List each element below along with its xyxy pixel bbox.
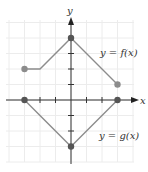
y-axis-arrow-icon bbox=[68, 17, 74, 25]
data-point bbox=[114, 81, 120, 87]
data-point bbox=[21, 97, 27, 103]
chart: x y y = f(x) y = g(x) bbox=[0, 0, 148, 172]
data-point bbox=[68, 143, 74, 149]
x-axis-arrow-icon bbox=[131, 97, 139, 103]
f-label: y = f(x) bbox=[99, 47, 138, 58]
x-axis-label: x bbox=[140, 95, 146, 106]
g-label: y = g(x) bbox=[98, 130, 139, 141]
data-point bbox=[21, 66, 27, 72]
data-point bbox=[114, 97, 120, 103]
y-axis-label: y bbox=[66, 5, 73, 16]
data-point bbox=[68, 35, 74, 41]
